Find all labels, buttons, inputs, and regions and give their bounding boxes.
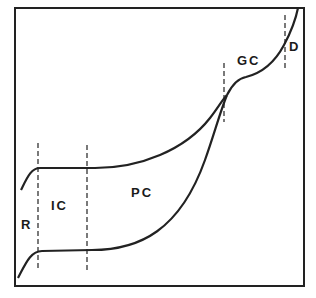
label-pc: PC (131, 185, 153, 200)
lower-curve (18, 95, 227, 278)
upper-curve (21, 95, 227, 190)
label-ic: IC (51, 198, 68, 213)
label-gc: GC (237, 53, 261, 68)
label-r: R (21, 217, 32, 232)
label-d: D (289, 39, 300, 54)
diagram-canvas: R IC PC GC D (0, 0, 316, 298)
shared-curve (227, 8, 298, 95)
diagram-frame (15, 8, 304, 286)
